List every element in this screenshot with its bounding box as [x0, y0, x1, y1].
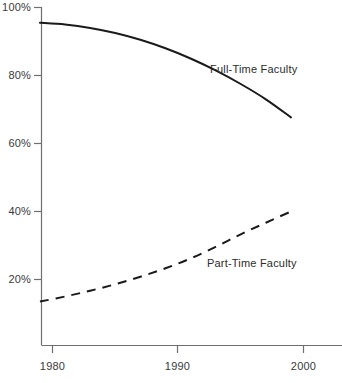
x-tick-label-1990: 1990 — [147, 360, 208, 372]
chart-container: 100% 80% 60% 40% 20% 1980 1990 2000 Full… — [0, 0, 342, 383]
x-tick-label-1980: 1980 — [22, 360, 83, 372]
y-tick-label-80: 80% — [0, 69, 31, 81]
y-tick-label-60: 60% — [0, 137, 31, 149]
series-label-full-time-faculty: Full-Time Faculty — [210, 63, 297, 75]
chart-plot-area — [0, 0, 342, 383]
x-tick-label-2000: 2000 — [273, 360, 334, 372]
y-axis-ticks — [34, 8, 42, 280]
y-tick-label-40: 40% — [0, 205, 31, 217]
y-tick-label-100: 100% — [0, 1, 31, 13]
series-label-part-time-faculty: Part-Time Faculty — [207, 257, 297, 269]
x-axis-ticks — [53, 346, 304, 354]
y-tick-label-20: 20% — [0, 273, 31, 285]
